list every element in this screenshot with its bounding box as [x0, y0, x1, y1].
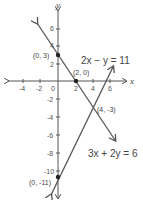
svg-text:-4: -4: [19, 85, 25, 92]
x-axis-label: x: [129, 76, 134, 86]
line-2x-minus-y-eq-11: [51, 67, 113, 195]
svg-text:2: 2: [50, 61, 54, 68]
label-0-3: (0, 3): [33, 52, 49, 60]
point-2-0: [74, 79, 78, 83]
svg-text:6: 6: [108, 85, 112, 92]
svg-text:2: 2: [74, 85, 78, 92]
point-0-m11: [56, 175, 60, 179]
svg-text:-2: -2: [47, 96, 53, 103]
svg-text:-8: -8: [47, 150, 53, 157]
label-4-m3: (4, -3): [97, 106, 116, 114]
label-0-m11: (0, -11): [29, 179, 51, 187]
svg-text:-4: -4: [47, 114, 53, 121]
y-axis-label: y: [55, 0, 60, 10]
svg-text:-10: -10: [44, 168, 54, 175]
point-0-3: [56, 53, 60, 57]
svg-text:-2: -2: [36, 85, 42, 92]
svg-text:6: 6: [50, 25, 54, 32]
svg-text:4: 4: [91, 85, 95, 92]
equation-3x-plus-2y: 3x + 2y = 6: [88, 148, 138, 159]
graph: x y -4 -2 0 2 4 6 6 4 2 -2 -4 -6 -8 -10: [0, 0, 143, 200]
equation-2x-minus-y: 2x − y = 11: [81, 55, 130, 66]
svg-text:-6: -6: [47, 132, 53, 139]
svg-text:0: 0: [51, 85, 55, 92]
label-2-0: (2, 0): [73, 69, 89, 77]
